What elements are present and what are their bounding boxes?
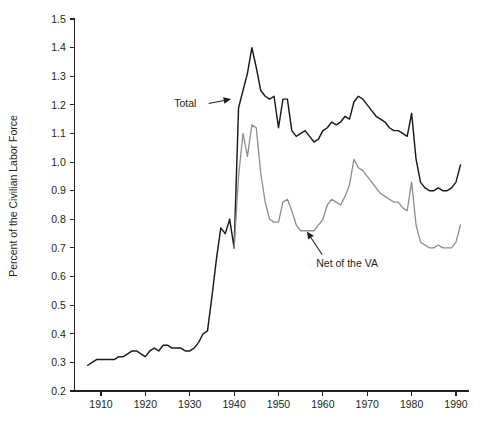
chart-container: Percent of the Civilian Labor Force 0.20… [0, 0, 486, 431]
x-tick-label: 1930 [178, 398, 202, 410]
y-tick-label: 0.9 [51, 184, 66, 196]
y-tick-label: 1.2 [51, 99, 66, 111]
y-tick-label: 1.1 [51, 127, 66, 139]
annotation-leader-line [209, 101, 224, 104]
y-tick-label: 0.8 [51, 213, 66, 225]
annotation-label: Total [174, 97, 196, 109]
annotation-arrowhead-icon [307, 231, 314, 239]
series-line-total [88, 48, 461, 366]
x-tick-label: 1980 [400, 398, 424, 410]
y-tick-label: 0.7 [51, 242, 66, 254]
y-tick-label: 0.6 [51, 270, 66, 282]
annotation-arrowhead-icon [223, 97, 231, 104]
y-axis-title: Percent of the Civilian Labor Force [7, 115, 19, 277]
x-tick-label: 1940 [222, 398, 246, 410]
y-tick-label: 0.2 [51, 385, 66, 397]
y-tick-label: 1.5 [51, 13, 66, 25]
series-lines [88, 48, 461, 366]
x-tick-label: 1960 [311, 398, 335, 410]
x-tick-label: 1990 [444, 398, 468, 410]
x-tick-label: 1950 [267, 398, 291, 410]
y-tick-label: 0.3 [51, 356, 66, 368]
y-tick-label: 1.4 [51, 41, 66, 53]
annotation-leader-line [311, 238, 322, 255]
x-tick-label: 1920 [134, 398, 158, 410]
line-chart: Percent of the Civilian Labor Force 0.20… [0, 0, 486, 431]
series-line-net-of-the-va [234, 125, 460, 248]
y-axis-ticks: 0.20.30.40.50.60.70.80.91.01.11.21.31.41… [51, 13, 75, 397]
annotation-label: Net of the VA [316, 257, 378, 269]
y-tick-label: 0.4 [51, 328, 66, 340]
y-tick-label: 1.0 [51, 156, 66, 168]
y-axis-title-group: Percent of the Civilian Labor Force [7, 115, 19, 277]
x-tick-label: 1910 [89, 398, 113, 410]
x-axis-ticks: 191019201930194019501960197019801990 [89, 391, 468, 410]
y-tick-label: 0.5 [51, 299, 66, 311]
y-tick-label: 1.3 [51, 70, 66, 82]
x-tick-label: 1970 [356, 398, 380, 410]
chart-annotations: TotalNet of the VA [174, 97, 378, 268]
